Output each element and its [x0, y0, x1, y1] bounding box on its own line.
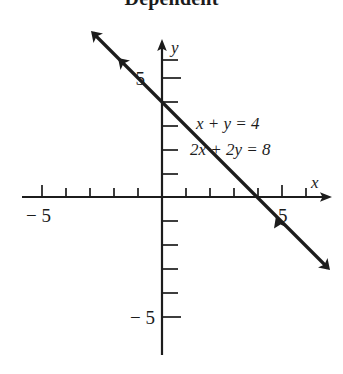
equation-label-first: x + y = 4	[195, 114, 260, 133]
coordinate-plane: − 5 5 5 − 5 x y	[0, 0, 343, 374]
line-graph	[60, 33, 328, 301]
graph-figure: Dependent	[0, 0, 343, 374]
x-axis	[22, 192, 332, 202]
y-axis-label: y	[169, 38, 179, 57]
x-axis-label: x	[310, 173, 319, 192]
x-axis-ticks	[42, 185, 306, 197]
y-tick-label-neg5: − 5	[130, 307, 155, 328]
x-tick-label-neg5: − 5	[26, 205, 51, 226]
y-axis-ticks	[162, 60, 181, 317]
equation-label-second: 2x + 2y = 8	[190, 140, 271, 159]
